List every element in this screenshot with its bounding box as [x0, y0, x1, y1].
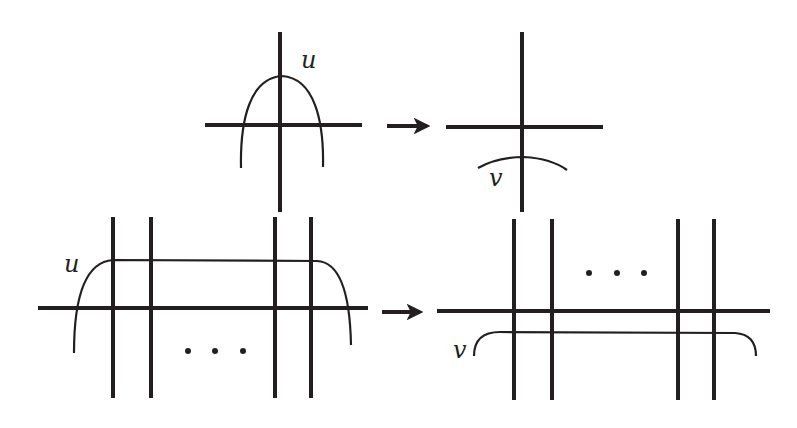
panel-bottom-left	[38, 217, 368, 398]
ellipsis-dots-bottom-left	[185, 348, 246, 354]
curve-transformation-diagram: u v u v	[0, 0, 797, 428]
panel-top-left	[205, 32, 362, 212]
label-u-top: u	[301, 46, 316, 74]
panel-top-right	[446, 32, 603, 212]
panel-bottom-right	[437, 219, 770, 400]
label-v-bottom: v	[453, 336, 467, 364]
label-u-bottom: u	[64, 250, 79, 278]
label-v-top: v	[489, 164, 503, 192]
ellipsis-dots-bottom-right	[586, 270, 647, 276]
